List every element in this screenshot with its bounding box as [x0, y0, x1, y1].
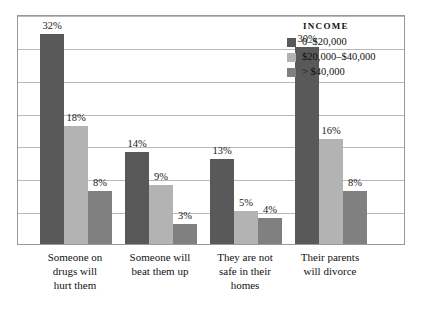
bar: 14%: [125, 152, 149, 244]
bar: 5%: [234, 211, 258, 244]
bar: 8%: [343, 191, 367, 244]
category-label-line: drugs will: [30, 264, 120, 278]
bar: 3%: [173, 224, 197, 244]
category-label: Their parentswill divorce: [285, 250, 375, 278]
bar-group: 13%5%4%: [210, 16, 282, 244]
bar: 9%: [149, 185, 173, 244]
bar: 18%: [64, 126, 88, 244]
legend-swatch-icon: [287, 53, 296, 62]
bar-value-label: 18%: [66, 112, 85, 124]
legend-entry-label: > $40,000: [302, 66, 345, 78]
legend-entry: $20,000–$40,000: [283, 50, 405, 64]
bar: 8%: [88, 191, 112, 244]
category-label: Someone willbeat them up: [115, 250, 205, 278]
legend-swatch-icon: [287, 68, 296, 77]
legend-entry: 0–$20,000: [283, 35, 405, 49]
bar: 16%: [319, 139, 343, 244]
grouped-bar-chart: 32%18%8%14%9%3%13%5%4%30%16%8% Someone o…: [0, 0, 422, 310]
bar: 13%: [210, 159, 234, 244]
category-label-line: safe in their: [200, 264, 290, 278]
legend-entry-label: $20,000–$40,000: [302, 51, 376, 63]
category-label-line: beat them up: [115, 264, 205, 278]
bar-group: 32%18%8%: [40, 16, 112, 244]
bar-value-label: 9%: [154, 171, 168, 183]
category-label-line: They are not: [200, 250, 290, 264]
category-label-line: Their parents: [285, 250, 375, 264]
category-label: They are notsafe in theirhomes: [200, 250, 290, 292]
category-label-line: Someone on: [30, 250, 120, 264]
bar-value-label: 8%: [348, 177, 362, 189]
bar: 32%: [40, 34, 64, 244]
category-label-line: homes: [200, 278, 290, 292]
x-axis-category-labels: Someone ondrugs willhurt themSomeone wil…: [17, 250, 405, 302]
legend: INCOME 0–$20,000$20,000–$40,000> $40,000: [283, 17, 405, 85]
bar-value-label: 16%: [321, 125, 340, 137]
category-label-line: will divorce: [285, 264, 375, 278]
bar-value-label: 5%: [239, 197, 253, 209]
legend-swatch-icon: [287, 38, 296, 47]
bar-value-label: 13%: [212, 145, 231, 157]
legend-title: INCOME: [303, 21, 405, 32]
category-label-line: Someone will: [115, 250, 205, 264]
bar-value-label: 8%: [93, 177, 107, 189]
bar-value-label: 3%: [178, 210, 192, 222]
category-label-line: hurt them: [30, 278, 120, 292]
bar-value-label: 14%: [127, 138, 146, 150]
legend-entry: > $40,000: [283, 65, 405, 79]
legend-entries: 0–$20,000$20,000–$40,000> $40,000: [283, 35, 405, 79]
legend-entry-label: 0–$20,000: [302, 36, 347, 48]
bar-value-label: 4%: [263, 204, 277, 216]
bar-group: 14%9%3%: [125, 16, 197, 244]
bar: 4%: [258, 218, 282, 244]
bar-value-label: 32%: [42, 20, 61, 32]
category-label: Someone ondrugs willhurt them: [30, 250, 120, 292]
